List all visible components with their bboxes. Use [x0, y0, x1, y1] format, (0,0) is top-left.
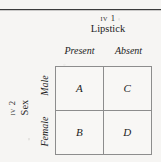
matrix-cell-a: A [56, 67, 104, 111]
design-matrix: A C B D [55, 66, 152, 155]
top-horizontal-rule [0, 9, 161, 10]
factorial-design-figure: IV 1 Lipstick Present Absent IV 2 Sex Ma… [0, 0, 161, 162]
column-level-absent: Absent [104, 44, 153, 57]
row-factor-name: Sex [19, 83, 30, 133]
column-factor-heading: IV 1 Lipstick [56, 13, 160, 35]
column-level-present: Present [55, 44, 104, 57]
row-factor-tag: IV 2 [7, 83, 17, 133]
column-level-labels: Present Absent [55, 44, 153, 57]
row-level-male: Male [39, 64, 50, 108]
row-level-female: Female [39, 108, 50, 156]
column-factor-tag: IV 1 [56, 13, 160, 23]
matrix-cell-c: C [104, 67, 152, 111]
matrix-cell-d: D [104, 111, 152, 155]
column-factor-name: Lipstick [56, 23, 160, 35]
matrix-cell-b: B [56, 111, 104, 155]
